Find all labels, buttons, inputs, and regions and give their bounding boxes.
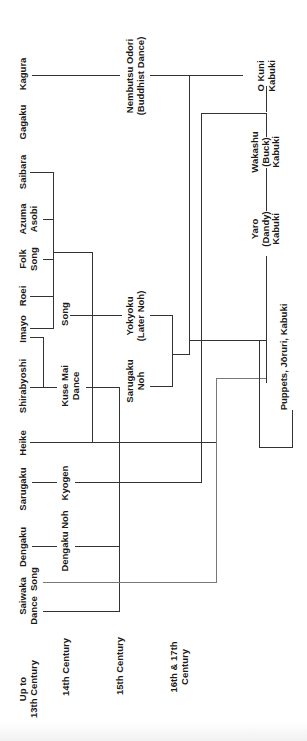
connector (266, 86, 267, 112)
node-shirabyoshi: Shirabyoshi (18, 359, 29, 413)
connector (216, 378, 217, 583)
connector (119, 387, 120, 612)
connector (30, 442, 217, 443)
node-saibara: Saibara (18, 155, 29, 189)
connector (43, 219, 53, 220)
node-song: Song (60, 302, 71, 326)
connector (53, 172, 54, 329)
node-azuma-asobi: Azuma Asobi (18, 203, 39, 234)
node-kyogen: Kyogen (60, 466, 71, 501)
connector (259, 447, 293, 448)
page-edge (0, 722, 307, 741)
connector (53, 252, 93, 253)
era-label-16th-17th: 16th & 17th Century (169, 641, 190, 692)
connector (32, 482, 57, 483)
connector (70, 315, 122, 316)
connector (259, 340, 260, 448)
node-kuse-mai: Kuse Mai Dance (60, 365, 81, 407)
connector (43, 611, 120, 612)
node-sarugaku-noh: Sarugaku Noh (125, 359, 146, 402)
connector (201, 113, 202, 483)
connector (172, 354, 190, 355)
node-saiwaka: Saiwaka Dance Song (18, 567, 39, 625)
node-nembutsu-odori: Nembutsu Odori (Buddhist Dance) (125, 37, 146, 116)
connector (30, 337, 43, 338)
connector (43, 259, 53, 260)
connector (150, 315, 173, 316)
node-yaro-kabuki: Yaro (Dandy) Kabuki (250, 211, 282, 246)
node-dengaku: Dengaku (18, 527, 29, 567)
connector (266, 256, 267, 321)
node-kagura: Kagura (18, 58, 29, 91)
node-roei: Roei (18, 286, 29, 307)
node-sarugaku: Sarugaku (18, 467, 29, 510)
connector (150, 386, 173, 387)
connector (266, 113, 267, 137)
connector (86, 387, 120, 388)
era-label-13th: Up to 13th Century (18, 660, 39, 718)
connector (292, 410, 293, 448)
connector (189, 75, 190, 354)
connector (32, 546, 57, 547)
connector (43, 582, 217, 583)
connector (32, 75, 120, 76)
connector (266, 168, 267, 211)
connector (30, 172, 53, 173)
connector (30, 296, 53, 297)
node-wakashu-kabuki: Wakashu (Buck) Kabuki (250, 131, 282, 172)
connector (75, 482, 202, 483)
node-imayo: Imayo (18, 315, 29, 342)
node-gagaku: Gagaku (18, 105, 29, 140)
node-puppets-joruri-kabuki: Puppets, Jōruri, Kabuki (279, 304, 290, 411)
node-folk-song: Folk Song (18, 247, 39, 271)
connector (43, 337, 44, 387)
era-label-14th: 14th Century (61, 638, 72, 696)
node-yokyoku: Yokyoku (Later Noh) (125, 291, 146, 342)
connector (30, 328, 53, 329)
connector (30, 387, 57, 388)
connector (92, 252, 93, 442)
era-label-15th: 15th Century (115, 637, 126, 695)
connector (75, 546, 120, 547)
connector (189, 340, 267, 341)
connector (172, 315, 173, 387)
node-dengaku-noh: Dengaku Noh (60, 510, 71, 571)
connector (150, 75, 243, 76)
lineage-diagram: Up to 13th Century 14th Century 15th Cen… (0, 0, 307, 741)
connector (201, 113, 267, 114)
connector (266, 321, 267, 383)
node-heike: Heike (18, 430, 29, 455)
